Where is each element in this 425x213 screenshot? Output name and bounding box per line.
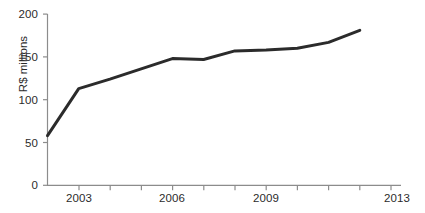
line-chart: 200 150 100 50 0 2003 2006 2009 2013 R$ …	[0, 0, 425, 213]
y-axis-title: R$ millions	[17, 19, 29, 109]
x-tick-label-2006: 2006	[150, 192, 194, 204]
x-axis-ticks	[79, 185, 391, 190]
x-tick-label-2009: 2009	[244, 192, 288, 204]
y-axis-ticks	[43, 14, 48, 185]
x-tick-label-2013: 2013	[375, 192, 419, 204]
data-series-line	[48, 30, 360, 135]
y-tick-label-50: 50	[2, 137, 38, 149]
x-tick-label-2003: 2003	[57, 192, 101, 204]
chart-plot-area	[0, 0, 425, 213]
y-tick-label-0: 0	[2, 179, 38, 191]
